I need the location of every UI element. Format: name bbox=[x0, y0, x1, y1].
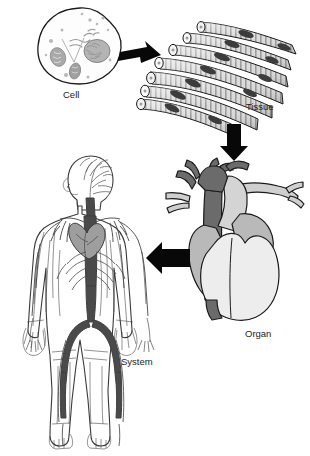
organ-label: Organ bbox=[245, 328, 271, 339]
levels-of-organization-diagram: Cell bbox=[0, 0, 310, 456]
tissue-label: Tissue bbox=[246, 101, 274, 112]
cell-label: Cell bbox=[63, 89, 79, 100]
system-label: System bbox=[121, 356, 153, 367]
cell-nucleus bbox=[84, 40, 110, 63]
